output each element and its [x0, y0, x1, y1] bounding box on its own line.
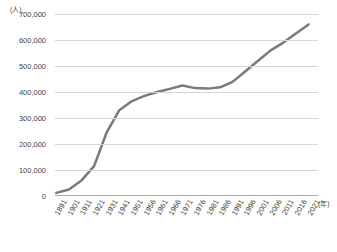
series-line-population	[55, 14, 318, 196]
gridline	[55, 118, 318, 119]
y-tick-label: 400,000	[19, 88, 46, 97]
y-tick-label: 700,000	[19, 10, 46, 19]
x-axis-tick-labels: 1891190119111921193119411951195619611966…	[55, 198, 318, 252]
gridline	[55, 144, 318, 145]
x-tick-label: 1976	[192, 198, 208, 217]
population-line-chart: (人) 700,000600,000500,000400,000300,0002…	[0, 0, 337, 252]
x-axis-unit-label: (年)	[318, 198, 330, 208]
x-tick-label: 2016	[293, 198, 309, 217]
plot-area	[55, 14, 318, 196]
gridline	[55, 14, 318, 15]
gridline	[55, 170, 318, 171]
gridline	[55, 92, 318, 93]
y-tick-label: 200,000	[19, 140, 46, 149]
x-tick-label: 1921	[91, 198, 107, 217]
x-tick-label: 2001	[255, 198, 271, 217]
gridline	[55, 40, 318, 41]
y-tick-label: 0	[42, 192, 46, 201]
y-axis-tick-labels: 700,000600,000500,000400,000300,000200,0…	[0, 0, 52, 252]
x-tick-label: 1951	[129, 198, 145, 217]
gridline	[55, 66, 318, 67]
y-tick-label: 300,000	[19, 114, 46, 123]
x-tick-label: 2011	[280, 198, 296, 216]
y-tick-label: 100,000	[19, 166, 46, 175]
x-tick-label: 1891	[53, 198, 69, 217]
y-tick-label: 500,000	[19, 62, 46, 71]
y-tick-label: 600,000	[19, 36, 46, 45]
